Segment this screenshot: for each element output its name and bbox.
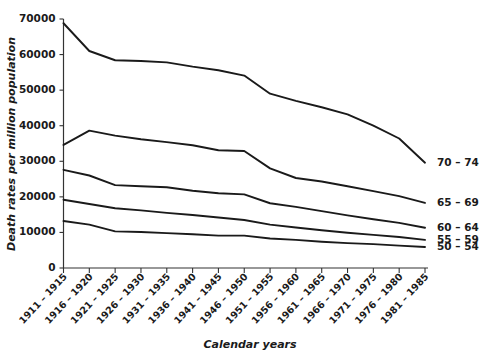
- series-labels: 70 – 7465 – 6960 – 6455 – 5950 – 54: [437, 156, 479, 252]
- series-label-2: 60 – 64: [437, 221, 479, 233]
- y-tick-label: 60000: [19, 48, 56, 60]
- line-chart-canvas: 010000200003000040000500006000070000 70 …: [0, 0, 500, 363]
- series-line-0: [64, 23, 426, 162]
- series-lines: [64, 23, 426, 247]
- series-line-1: [64, 131, 426, 203]
- y-axis-ticks: 010000200003000040000500006000070000: [19, 12, 64, 273]
- series-label-4: 50 – 54: [437, 240, 479, 252]
- y-axis-title: Death rates per million population: [5, 37, 18, 251]
- y-tick-label: 70000: [19, 12, 56, 24]
- series-label-1: 65 – 69: [437, 196, 479, 208]
- y-tick-label: 10000: [19, 225, 56, 237]
- y-tick-label: 20000: [19, 190, 56, 202]
- y-tick-label: 30000: [19, 154, 56, 166]
- y-tick-label: 50000: [19, 83, 56, 95]
- x-axis-title: Calendar years: [203, 338, 297, 351]
- series-label-0: 70 – 74: [437, 156, 479, 168]
- y-tick-label: 40000: [19, 119, 56, 131]
- chart-figure: 010000200003000040000500006000070000 70 …: [0, 0, 500, 363]
- y-tick-label: 0: [48, 261, 55, 273]
- x-tick-labels: 1911 – 19151916 – 19201921 – 19251926 – …: [17, 271, 431, 326]
